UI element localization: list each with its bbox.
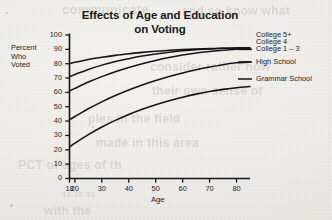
series-curve: [70, 49, 251, 91]
series-curve: [70, 87, 251, 147]
y-axis-tick-label: 50: [42, 103, 62, 111]
y-axis-tick-label: 30: [42, 131, 62, 139]
y-axis-tick-label: 0: [42, 174, 62, 182]
series-label: College 1 – 3: [256, 45, 300, 53]
chart-figure: Effects of Age and Education on Voting P…: [0, 0, 332, 220]
x-axis-tick-label: 60: [173, 185, 193, 193]
y-axis-caption-line-3: Voted: [11, 61, 36, 70]
x-axis-tick-label: 40: [119, 185, 139, 193]
y-axis-tick-label: 80: [42, 60, 62, 68]
series-label-leaders: [238, 49, 252, 79]
x-axis-tick-label: 30: [92, 185, 112, 193]
x-axis-tick-label: 20: [65, 185, 85, 193]
chart-title-line-1: Effects of Age and Education: [56, 9, 264, 23]
y-axis-tick-label: 100: [42, 31, 62, 39]
series-curves: [70, 48, 251, 147]
y-axis-caption: Percent Who Voted: [11, 44, 36, 70]
y-axis-tick-label: 40: [42, 117, 62, 125]
series-curve: [70, 48, 251, 77]
series-label: Grammar School: [256, 75, 312, 83]
x-axis-caption: Age: [151, 196, 165, 205]
y-axis-tick-label: 90: [42, 45, 62, 53]
x-axis-tick-label: 80: [227, 185, 247, 193]
y-axis-tick-label: 20: [42, 146, 62, 154]
y-axis-tick-label: 70: [42, 74, 62, 82]
y-axis-tick-label: 10: [42, 160, 62, 168]
series-label: High School: [256, 58, 296, 66]
x-axis-tick-label: 50: [146, 185, 166, 193]
series-curve: [70, 62, 251, 120]
y-axis-tick-label: 60: [42, 88, 62, 96]
chart-title: Effects of Age and Education on Voting: [56, 9, 264, 36]
x-axis-tick-label: 70: [200, 185, 220, 193]
axes: [65, 34, 250, 183]
chart-title-line-2: on Voting: [56, 23, 264, 37]
